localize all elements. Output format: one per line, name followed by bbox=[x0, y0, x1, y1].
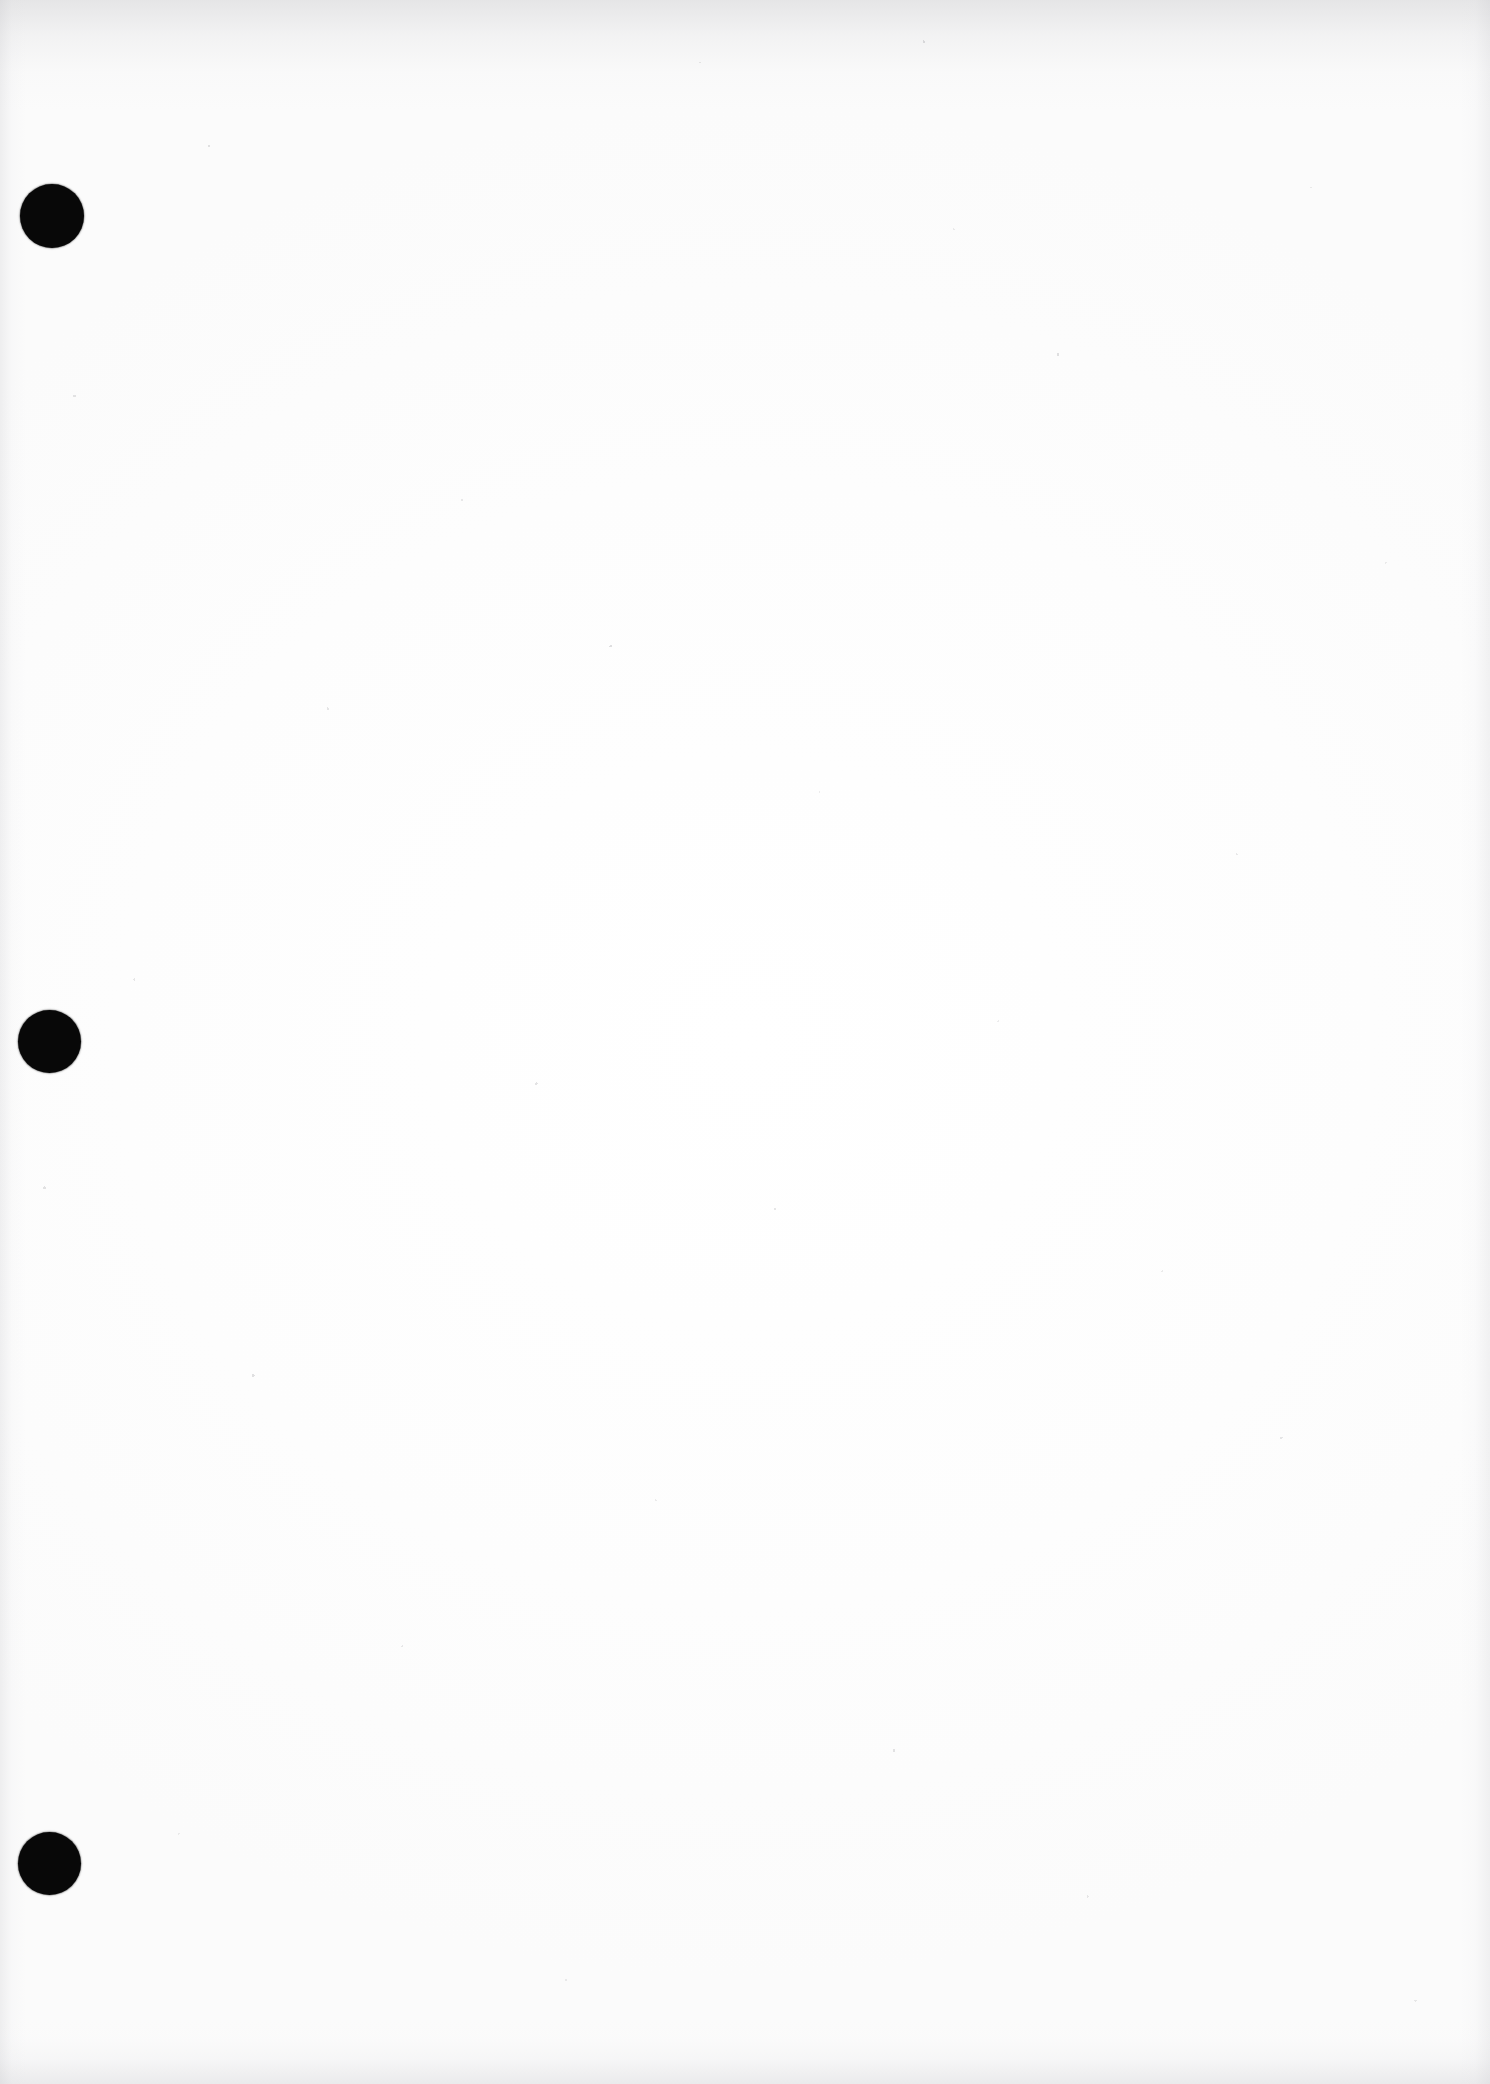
punch-hole-top bbox=[20, 184, 84, 248]
punch-hole-middle bbox=[18, 1010, 81, 1073]
paper-background bbox=[0, 0, 1490, 2084]
punch-hole-bottom bbox=[18, 1832, 81, 1895]
scanned-page bbox=[0, 0, 1490, 2084]
